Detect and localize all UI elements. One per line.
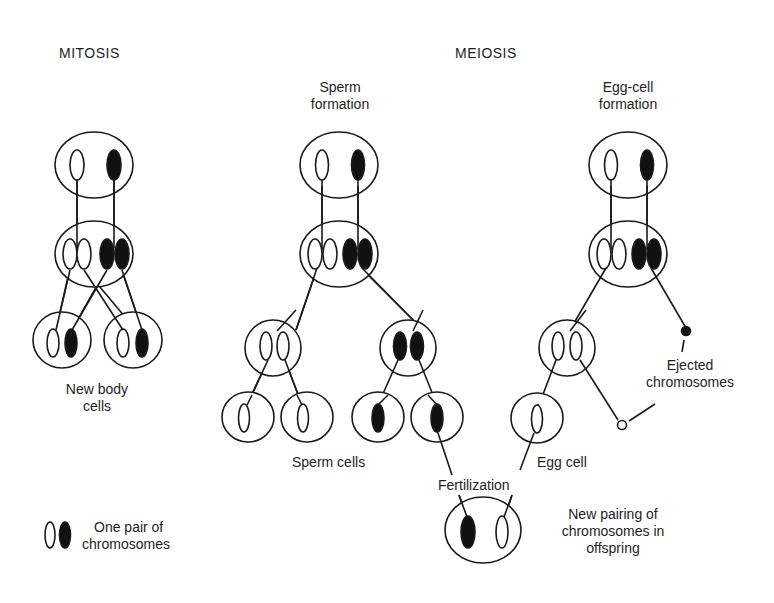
fertilization-label: Fertilization bbox=[438, 477, 510, 494]
meiosis-title: MEIOSIS bbox=[455, 45, 517, 62]
sperm-formation-heading: Sperm formation bbox=[298, 79, 382, 113]
legend-line1: One pair of bbox=[82, 519, 170, 536]
mitosis-branch bbox=[33, 132, 162, 368]
chromosome-dark bbox=[107, 150, 121, 180]
chromosome-pair-icon bbox=[45, 522, 71, 548]
ejected-chromosomes-label: Ejected chromosomes bbox=[630, 357, 750, 391]
egg-cell-label: Egg cell bbox=[537, 454, 587, 471]
sperm-formation-line1: Sperm bbox=[298, 79, 382, 96]
sperm-cells-label: Sperm cells bbox=[292, 454, 365, 471]
mitosis-title: MITOSIS bbox=[59, 45, 120, 62]
mitosis-daughter-cell bbox=[33, 312, 91, 368]
ejected-chromosome-light bbox=[618, 421, 627, 430]
new-body-cells-label: New body cells bbox=[42, 381, 152, 415]
legend-label: One pair of chromosomes bbox=[82, 519, 170, 553]
ejected-line2: chromosomes bbox=[630, 374, 750, 391]
egg-parent-cell bbox=[589, 132, 667, 198]
mitosis-daughter-cell bbox=[104, 312, 162, 368]
offspring-line3: offspring bbox=[538, 540, 688, 557]
offspring-cell bbox=[445, 497, 521, 563]
legend-line2: chromosomes bbox=[82, 536, 170, 553]
egg-formation-line2: formation bbox=[586, 96, 670, 113]
sperm-formation-branch bbox=[222, 132, 463, 475]
offspring-branch bbox=[445, 495, 521, 563]
ejected-chromosome-dark bbox=[682, 327, 691, 336]
egg-formation-branch bbox=[511, 132, 691, 470]
sperm-formation-line2: formation bbox=[298, 96, 382, 113]
egg-formation-line1: Egg-cell bbox=[586, 79, 670, 96]
egg-secondary-cell bbox=[539, 320, 595, 376]
sperm-secondary-cell bbox=[245, 320, 301, 376]
offspring-line1: New pairing of bbox=[538, 506, 688, 523]
chromosome-light bbox=[70, 150, 84, 180]
egg-formation-heading: Egg-cell formation bbox=[586, 79, 670, 113]
new-body-cells-line1: New body bbox=[42, 381, 152, 398]
offspring-line2: chromosomes in bbox=[538, 523, 688, 540]
ejected-line1: Ejected bbox=[630, 357, 750, 374]
offspring-label: New pairing of chromosomes in offspring bbox=[538, 506, 688, 557]
sperm-parent-cell bbox=[300, 132, 378, 198]
sperm-secondary-cell bbox=[380, 320, 436, 376]
new-body-cells-line2: cells bbox=[42, 398, 152, 415]
